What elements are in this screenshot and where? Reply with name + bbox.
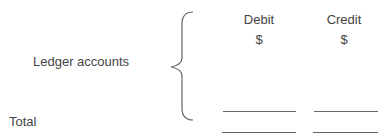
- debit-subtotal-line: [223, 111, 296, 112]
- debit-header: Debit: [224, 12, 294, 27]
- debit-unit: $: [224, 32, 294, 47]
- credit-subtotal-line: [314, 111, 378, 112]
- credit-total-line: [313, 132, 378, 133]
- credit-unit: $: [309, 32, 379, 47]
- debit-total-line: [222, 132, 296, 133]
- credit-header: Credit: [309, 12, 379, 27]
